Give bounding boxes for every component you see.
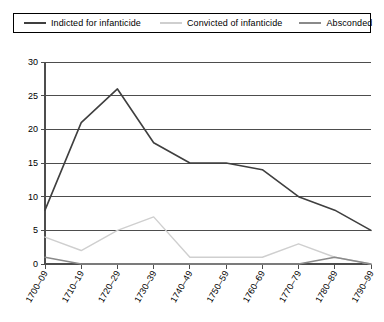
- ytick-label-20: 20: [28, 124, 38, 134]
- xtick-labels-group: 1700–091710–191720–291730–391740–491750–…: [24, 269, 376, 304]
- xtick-label-7: 1770–79: [277, 269, 303, 304]
- xtick-label-6: 1760–69: [241, 269, 267, 304]
- ytick-label-25: 25: [28, 91, 38, 101]
- xtick-label-9: 1790–99: [350, 269, 376, 304]
- legend-label-convicted: Convicted of infanticide: [187, 18, 282, 28]
- ytick-label-15: 15: [28, 158, 38, 168]
- legend-label-absconded: Absconded: [326, 18, 372, 28]
- ytick-label-30: 30: [28, 57, 38, 67]
- series-group: [45, 89, 371, 264]
- xtick-label-1: 1710–19: [60, 269, 86, 304]
- series-line-convicted-of-infanticide: [45, 217, 371, 264]
- xtick-label-3: 1730–39: [132, 269, 158, 304]
- ytick-label-5: 5: [33, 225, 38, 235]
- legend-line-swatch-indicted: [24, 22, 46, 24]
- xtick-label-5: 1750–59: [205, 269, 231, 304]
- xtick-label-8: 1780–89: [313, 269, 339, 304]
- xtick-label-2: 1720–29: [96, 269, 122, 304]
- plot-area: 051015202530 1700–091710–191720–291730–3…: [0, 40, 384, 322]
- series-line-indicted-for-infanticide: [45, 89, 371, 230]
- plot-svg: 051015202530 1700–091710–191720–291730–3…: [0, 40, 384, 322]
- tickmarks-group: [41, 62, 371, 269]
- xtick-label-4: 1740–49: [168, 269, 194, 304]
- legend-line-swatch-convicted: [160, 22, 182, 24]
- legend-line-swatch-absconded: [299, 22, 321, 24]
- xtick-label-0: 1700–09: [24, 269, 50, 304]
- legend-item-indicted: Indicted for infanticide: [24, 18, 141, 28]
- legend-item-absconded: Absconded: [299, 18, 372, 28]
- legend-label-indicted: Indicted for infanticide: [51, 18, 141, 28]
- ytick-labels-group: 051015202530: [28, 57, 38, 269]
- series-line-absconded: [45, 257, 371, 264]
- chart-legend: Indicted for infanticide Convicted of in…: [13, 13, 371, 33]
- ytick-label-10: 10: [28, 192, 38, 202]
- infanticide-line-chart: Indicted for infanticide Convicted of in…: [0, 0, 384, 322]
- legend-item-convicted: Convicted of infanticide: [160, 18, 282, 28]
- ytick-label-0: 0: [33, 259, 38, 269]
